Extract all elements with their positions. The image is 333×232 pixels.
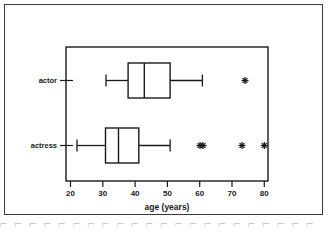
tick-label-80: 80 [260,189,269,198]
tick-label-40: 40 [131,189,140,198]
tick-label-30: 30 [98,189,107,198]
outlier-actress-80 [261,142,268,149]
tick-label-70: 70 [228,189,237,198]
category-label-actress: actress [31,141,57,150]
x-axis-tick-labels: 20 30 40 50 60 70 80 [66,189,269,198]
boxplot-svg: 20 30 40 50 60 70 80 age (years) actor a… [0,0,333,216]
tick-label-50: 50 [163,189,172,198]
tick-label-20: 20 [66,189,75,198]
outlier-actress-74 [239,142,246,149]
x-axis-ticks [71,181,265,187]
scanned-page: 20 30 40 50 60 70 80 age (years) actor a… [0,0,333,232]
box-group-actress [77,128,268,163]
page-bleed-text: ⌐ ⌐ ⌐ ⌐ ⌐ ⌐ ⌐ ⌐ ⌐ ⌐ ⌐ ⌐ ⌐ ⌐ ⌐ ⌐ ⌐ ⌐ ⌐ ⌐ … [0,216,333,232]
box-group-actor [106,63,249,98]
outlier-actor-76 [242,77,249,84]
box-actress [106,128,139,163]
boxplot-figure: 20 30 40 50 60 70 80 age (years) actor a… [0,0,333,216]
x-axis-title: age (years) [145,202,190,212]
category-label-actor: actor [39,76,57,85]
box-actor [128,63,170,98]
tick-label-60: 60 [195,189,204,198]
